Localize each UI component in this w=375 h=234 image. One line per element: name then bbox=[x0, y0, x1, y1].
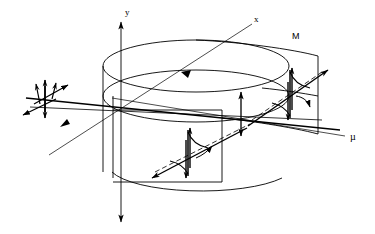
cylinder-top-rim bbox=[103, 40, 289, 92]
beam-line-lower-segment bbox=[30, 107, 322, 120]
y-axis-label: y bbox=[125, 7, 130, 17]
x-axis-arrowhead-lower bbox=[60, 119, 70, 127]
mu-axis-label: µ bbox=[350, 131, 356, 142]
cylinder-bottom-rim bbox=[112, 172, 282, 191]
x-axis-arrowhead-upper bbox=[181, 70, 191, 78]
diagram-canvas: y x µ bbox=[0, 0, 375, 234]
figure-root: y x µ bbox=[0, 0, 375, 234]
x-axis-label: x bbox=[254, 14, 259, 24]
spin-cluster-center bbox=[170, 128, 212, 178]
surface-label-m: M bbox=[292, 31, 300, 41]
spin-left-diag-arrow-b bbox=[52, 83, 56, 99]
right-trajectory-dashed bbox=[252, 72, 322, 120]
mu-axis bbox=[112, 98, 345, 136]
spin-center-lobe-upper bbox=[188, 132, 208, 148]
center-trajectory-line bbox=[152, 128, 247, 178]
center-trajectory bbox=[152, 124, 250, 178]
spin-right-curl-arrow bbox=[296, 96, 310, 107]
spin-right-lobe-upper bbox=[290, 72, 310, 88]
beam-line-lower bbox=[30, 107, 322, 120]
center-trajectory-dashed bbox=[155, 124, 250, 172]
mu-axis-line bbox=[112, 98, 345, 136]
